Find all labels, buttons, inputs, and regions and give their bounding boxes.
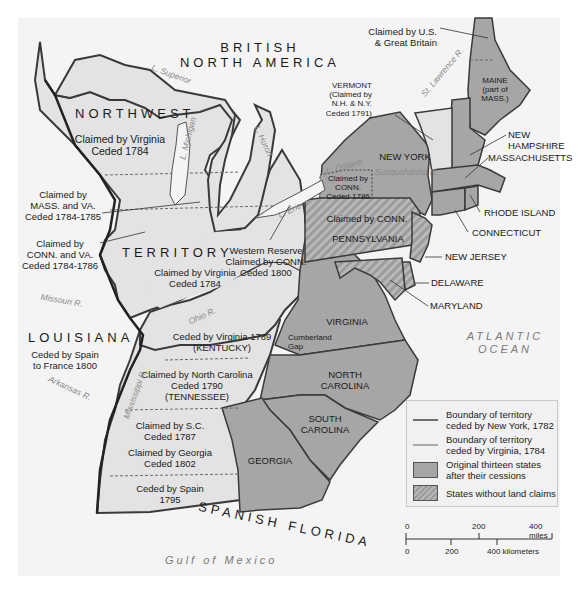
northwest-label: NORTHWEST	[75, 106, 195, 121]
connecticut	[432, 188, 465, 215]
legend-label: Boundary of territory ceded by New York,…	[446, 409, 554, 431]
georgia-label: GEORGIA	[248, 455, 293, 466]
susquehanna-label: Susquehanna R.	[375, 167, 438, 177]
louisiana-label: LOUISIANA	[28, 330, 133, 345]
legend-item-ny-boundary: Boundary of territory ceded by New York,…	[413, 409, 554, 431]
scale-miles-200: 200	[472, 522, 485, 531]
scale-bar: 0 200 400 miles 0 200 400 kilometers	[405, 522, 555, 562]
rhode-island-label: RHODE ISLAND	[484, 207, 555, 218]
maine-label: MAINE(part ofMASS.)	[481, 76, 509, 103]
new-jersey-label: NEW JERSEY	[445, 251, 507, 262]
legend-item-va-boundary: Boundary of territory ceded by Virginia,…	[413, 434, 545, 456]
legend-item-original-states: Original thirteen states after their ces…	[413, 459, 541, 481]
sc-claim-label: Claimed by S.C.Ceded 1787	[136, 420, 205, 442]
legend-label: Original thirteen states after their ces…	[446, 459, 541, 481]
territory-label: TERRITORY	[122, 245, 233, 260]
maryland-label: MARYLAND	[430, 300, 483, 311]
louisiana-ceded-label: Ceded by Spainto France 1800	[31, 349, 99, 371]
scale-km-0: 0	[405, 547, 409, 556]
massachusetts-label: MASSACHUSETTS	[488, 152, 572, 163]
hatched-swatch-icon	[413, 485, 438, 501]
va-boundary-line-icon	[413, 444, 438, 446]
connecticut-label: CONNECTICUT	[472, 227, 541, 238]
gray-swatch-icon	[413, 462, 438, 478]
new-york-label: NEW YORK	[379, 151, 431, 162]
legend-label: States without land claims	[446, 488, 556, 499]
legend-item-no-land-claims: States without land claims	[413, 485, 556, 501]
atlantic-ocean-label: ATLANTICOCEAN	[466, 330, 543, 355]
delaware-label: DELAWARE	[431, 277, 484, 288]
map-legend: Boundary of territory ceded by New York,…	[406, 400, 558, 507]
gulf-of-mexico-label: Gulf of Mexico	[165, 554, 277, 566]
pennsylvania-label: PENNSYLVANIA	[332, 233, 404, 244]
scale-km-400: 400 kilometers	[487, 547, 539, 556]
ny-boundary-line-icon	[413, 419, 438, 421]
scale-ruler-icon	[405, 532, 555, 546]
scale-km-200: 200	[445, 547, 458, 556]
virginia-label: VIRGINIA	[326, 316, 368, 327]
scale-miles-0: 0	[405, 522, 409, 531]
vermont-label: VERMONT(Claimed byN.H. & N.Y.Ceded 1791)	[326, 81, 373, 118]
us-gb-label: Claimed by U.S.& Great Britain	[368, 26, 437, 48]
conn-claim-pa-label: Claimed by CONN.	[327, 213, 408, 224]
legend-label: Boundary of territory ceded by Virginia,…	[446, 434, 545, 456]
